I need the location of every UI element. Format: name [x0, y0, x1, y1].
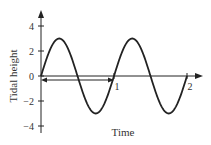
y-tick-label: −2 [23, 96, 34, 107]
y-axis-arrow-icon [38, 10, 44, 18]
arrow-left-icon [41, 78, 47, 83]
tidal-chart: 420−2−412 Tidal height Time [0, 0, 211, 145]
y-axis-label: Tidal height [7, 49, 19, 102]
x-axis-label: Time [112, 126, 135, 138]
y-tick-label: 0 [29, 71, 34, 82]
axes [38, 10, 203, 133]
x-tick-label: 1 [115, 81, 120, 92]
x-tick-label: 2 [188, 81, 193, 92]
y-tick-label: 4 [29, 21, 34, 32]
y-tick-label: −4 [23, 121, 34, 132]
x-axis-arrow-icon [195, 73, 203, 79]
y-tick-label: 2 [29, 46, 34, 57]
